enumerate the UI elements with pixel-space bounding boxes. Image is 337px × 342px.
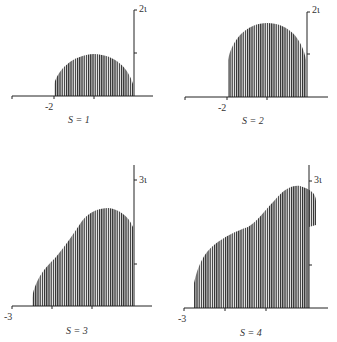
panel-s1: 2ι -2 S = 1 (0, 0, 170, 165)
plot-s2 (170, 0, 337, 165)
panel-s3: 3ι -3 S = 3 (0, 165, 170, 342)
panel-s2: 2ι -2 S = 2 (170, 0, 337, 165)
distribution-area (54, 54, 133, 96)
panel-caption: S = 2 (242, 115, 264, 126)
y-top-label: 2ι (139, 3, 147, 14)
panel-caption: S = 1 (68, 114, 90, 125)
plot-s3 (0, 165, 170, 342)
x-tick-label: -2 (45, 101, 53, 112)
distribution-area (32, 208, 133, 306)
plot-s1 (0, 0, 170, 165)
distribution-area (228, 23, 306, 97)
distribution-area (194, 186, 316, 308)
x-tick-label: -3 (4, 311, 12, 322)
y-top-label: 2ι (312, 4, 320, 15)
y-top-label: 3ι (139, 174, 147, 185)
x-tick-label: -3 (178, 313, 186, 324)
plot-s4 (170, 165, 337, 342)
panel-s4: 3ι -3 S = 4 (170, 165, 337, 342)
x-tick-label: -2 (218, 102, 226, 113)
panel-caption: S = 3 (66, 325, 88, 336)
y-top-label: 3ι (314, 174, 322, 185)
panel-caption: S = 4 (240, 327, 262, 338)
